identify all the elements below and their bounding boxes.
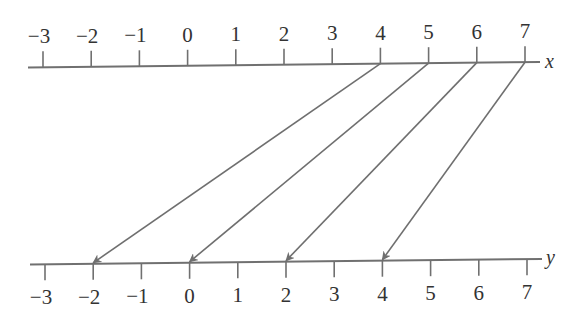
y-tick-label: −2 [78, 285, 100, 309]
y-tick-label: 2 [281, 283, 292, 307]
mapping-diagram: −3−2−101234567 x −3−2−101234567 y [0, 0, 562, 310]
x-axis-label: x [544, 50, 554, 72]
y-tick-label: 4 [377, 282, 388, 306]
x-tick-label: 1 [231, 22, 242, 46]
mapping-arrows [93, 62, 525, 263]
x-tick-label: 2 [279, 22, 290, 46]
x-tick-label: 7 [520, 19, 531, 43]
y-number-line: −3−2−101234567 y [30, 246, 555, 309]
mapping-arrow [286, 63, 477, 261]
x-tick-label: 3 [327, 21, 338, 45]
x-tick-label: 0 [182, 23, 193, 47]
y-tick-label: −1 [126, 284, 148, 308]
x-axis-ticks: −3−2−101234567 [28, 19, 530, 67]
y-tick-label: 1 [233, 283, 244, 307]
x-tick-label: −3 [28, 24, 50, 48]
y-axis-label: y [544, 246, 555, 269]
mapping-arrow [190, 63, 429, 262]
x-tick-label: −2 [76, 24, 98, 48]
y-tick-label: 3 [329, 282, 340, 306]
x-tick-label: 6 [472, 20, 483, 44]
x-tick-label: 4 [375, 21, 386, 45]
y-tick-label: −3 [30, 285, 52, 309]
x-tick-label: −1 [124, 23, 146, 47]
y-tick-label: 7 [522, 280, 533, 304]
y-axis-ticks: −3−2−101234567 [30, 259, 532, 309]
mapping-arrow [93, 64, 380, 263]
y-tick-label: 5 [425, 281, 436, 305]
x-tick-label: 5 [423, 20, 434, 44]
y-tick-label: 6 [474, 281, 485, 305]
mapping-arrow [382, 62, 525, 260]
y-tick-label: 0 [184, 284, 195, 308]
